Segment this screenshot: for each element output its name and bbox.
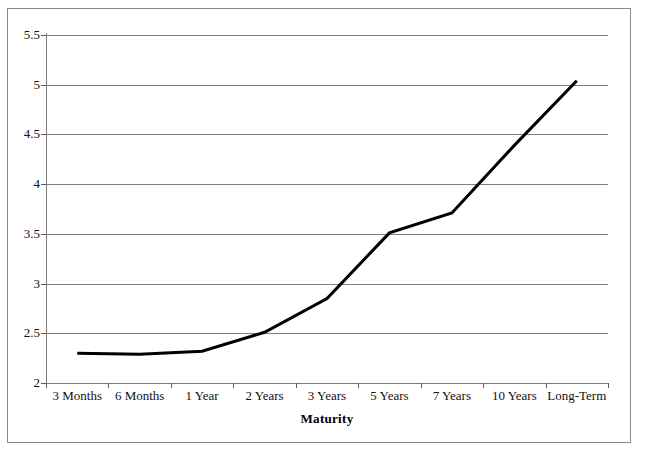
y-tick-label: 4.5 xyxy=(4,127,40,140)
x-tick-label: 7 Years xyxy=(421,388,483,403)
x-tick-label: 2 Years xyxy=(233,388,295,403)
x-tick-label: 3 Years xyxy=(296,388,358,403)
x-tick-label: 5 Years xyxy=(358,388,420,403)
chart-page: 22.533.544.555.5 3 Months6 Months1 Year2… xyxy=(0,0,657,461)
gridline xyxy=(46,383,608,384)
y-tick-label: 2 xyxy=(4,376,40,389)
y-tick-label: 5.5 xyxy=(4,28,40,41)
x-tick-label: Long-Term xyxy=(546,388,608,403)
x-axis-title: Maturity xyxy=(46,411,608,427)
x-tick-label: 10 Years xyxy=(483,388,545,403)
series-yield-line xyxy=(77,81,577,354)
line-series xyxy=(46,35,608,383)
x-tick-label: 3 Months xyxy=(46,388,108,403)
y-tick-label: 3 xyxy=(4,277,40,290)
y-tick-label: 3.5 xyxy=(4,227,40,240)
x-tick-mark xyxy=(608,383,609,388)
y-tick-label: 5 xyxy=(4,78,40,91)
x-tick-label: 1 Year xyxy=(171,388,233,403)
x-tick-label: 6 Months xyxy=(108,388,170,403)
y-axis-tick-labels: 22.533.544.555.5 xyxy=(0,0,40,461)
y-tick-label: 2.5 xyxy=(4,326,40,339)
y-tick-label: 4 xyxy=(4,177,40,190)
